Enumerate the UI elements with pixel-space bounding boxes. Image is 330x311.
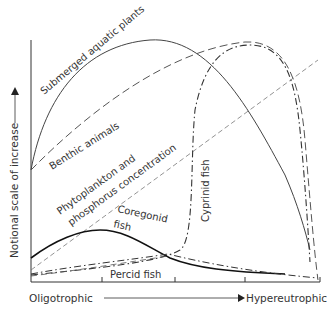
series-phytoplankton [31,60,318,270]
series-cyprinid-fish [31,45,310,275]
chart: Submerged aquatic plants Benthic animals… [0,0,330,311]
label-benthic: Benthic animals [47,120,121,172]
x-arrow-head-icon [238,294,245,302]
label-percid: Percid fish [110,269,161,280]
label-coregonid-2: fish [113,218,133,232]
label-cyprinid: Cyprinid fish [200,159,211,222]
x-label-oligotrophic: Oligotrophic [29,292,93,304]
label-submerged: Submerged aquatic plants [38,3,146,96]
series-benthic-animals [31,42,318,280]
y-arrow-head-icon [11,87,19,95]
series-percid-fish [31,254,318,278]
series-coregonid-fish [31,230,285,274]
x-label-hypereutrophic: Hypereutrophic [246,292,327,304]
y-label: Notional scale of increase [8,123,20,258]
